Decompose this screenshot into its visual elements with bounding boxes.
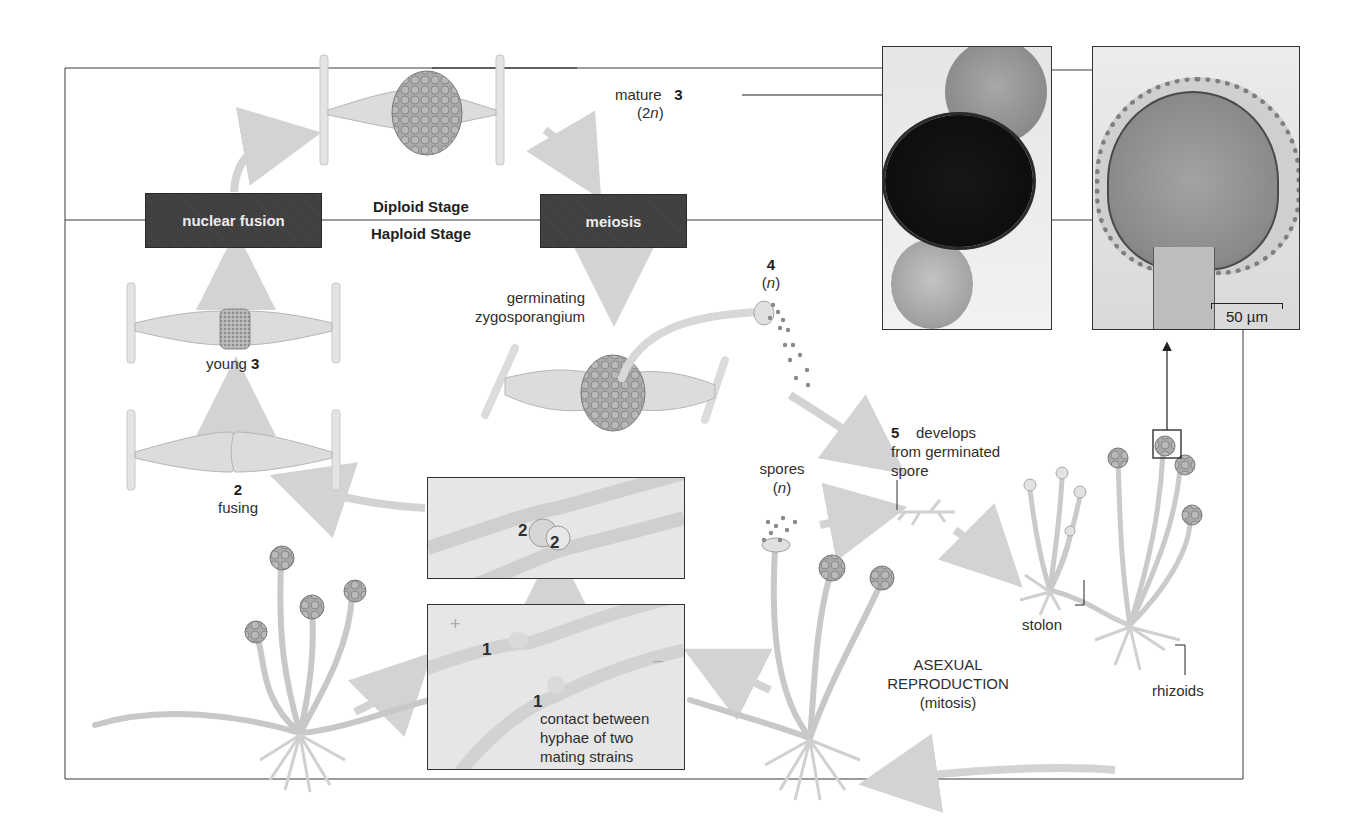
nuclear-fusion-box: nuclear fusion bbox=[145, 193, 322, 248]
asexual-reproduction-label: ASEXUAL REPRODUCTION (mitosis) bbox=[868, 655, 1028, 712]
germinated-spore-mycelium bbox=[890, 500, 955, 525]
meiosis-box: meiosis bbox=[540, 194, 687, 248]
inset-fusing-label-a: 2 bbox=[518, 522, 527, 540]
spores-label: spores (n) bbox=[752, 459, 812, 497]
zygospore-body bbox=[885, 115, 1033, 247]
left-sporangiophores bbox=[95, 565, 430, 733]
minus-strain-mark: – bbox=[653, 651, 663, 669]
fusion-inset: 2 2 bbox=[427, 477, 685, 579]
contact-caption: contact between hyphae of two mating str… bbox=[540, 709, 649, 766]
stolon-label: stolon bbox=[1022, 616, 1062, 634]
inset-contact-label-a: 1 bbox=[482, 641, 491, 659]
mature-ploidy-label: (2n) bbox=[637, 104, 664, 122]
germinating-zygosporangium-label: germinating zygosporangium bbox=[475, 288, 585, 326]
middle-sporangiophores bbox=[690, 550, 880, 738]
life-cycle-diagram: 50 µm 2 2 + – 1 1 contact between hyphae… bbox=[0, 0, 1365, 821]
young-zygosporangium bbox=[127, 283, 340, 363]
haploid-stage-label: Haploid Stage bbox=[371, 225, 471, 242]
step5-label: 5 develops from germinated spore bbox=[891, 423, 1000, 480]
mature-zygosporangium-label: mature 3 bbox=[615, 86, 683, 104]
diploid-stage-label: Diploid Stage bbox=[373, 198, 469, 215]
inset-fusing-label-b: 2 bbox=[550, 534, 559, 552]
left-rhizoids bbox=[260, 735, 345, 792]
rhizoids-label: rhizoids bbox=[1152, 682, 1204, 700]
sporangiophore-stalk bbox=[1153, 247, 1215, 330]
lower-suspensor-cell bbox=[891, 239, 973, 329]
contact-inset: + – 1 1 contact between hyphae of two ma… bbox=[427, 604, 685, 770]
young-zygosporangium-label: young 3 bbox=[206, 355, 259, 373]
plus-strain-mark: + bbox=[450, 615, 461, 633]
fusing-label: 2 fusing bbox=[218, 481, 258, 517]
mature-zygosporangium bbox=[320, 55, 504, 165]
fusion-inset-art bbox=[428, 478, 684, 578]
meiosis-label: meiosis bbox=[586, 213, 642, 230]
fusing-gametangia bbox=[127, 410, 340, 490]
columella bbox=[1107, 91, 1279, 271]
sporangium-micrograph: 50 µm bbox=[1092, 46, 1300, 330]
nuclear-fusion-label: nuclear fusion bbox=[182, 212, 285, 229]
scale-bar: 50 µm bbox=[1211, 303, 1283, 325]
scale-bar-label: 50 µm bbox=[1211, 308, 1283, 325]
middle-rhizoids bbox=[765, 740, 860, 800]
step4-label: 4 (n) bbox=[756, 256, 786, 292]
zygosporangium-micrograph bbox=[882, 46, 1052, 330]
